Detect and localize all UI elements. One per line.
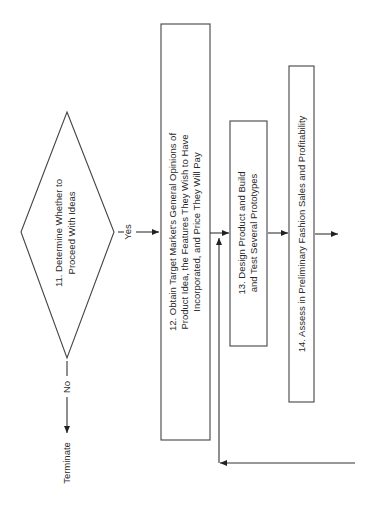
decision-11-line1: 11. Determine Whether to bbox=[53, 179, 64, 287]
step-13-line1: 13. Design Product and Build bbox=[236, 171, 247, 294]
step-12-line1: 12. Obtain Target Market's General Opini… bbox=[167, 133, 178, 331]
process-node-13: 13. Design Product and Build and Test Se… bbox=[230, 121, 267, 346]
decision-node-11: 11. Determine Whether to Proceed With Id… bbox=[21, 112, 114, 358]
process-node-12: 12. Obtain Target Market's General Opini… bbox=[161, 24, 210, 440]
step-12-line3: Incorporated, and Price They Will Pay bbox=[191, 152, 202, 312]
step-13-line2: and Test Several Prototypes bbox=[248, 173, 259, 292]
decision-11-line2: Proceed With Ideas bbox=[66, 191, 77, 274]
step-14-line1: 14. Assess in Preliminary Fashion Sales … bbox=[296, 115, 307, 352]
step-12-line2: Product Idea, the Features They Wish to … bbox=[179, 134, 190, 329]
process-node-14: 14. Assess in Preliminary Fashion Sales … bbox=[289, 66, 314, 402]
flowchart-diagram: 11. Determine Whether to Proceed With Id… bbox=[0, 0, 370, 506]
yes-connector: Yes bbox=[118, 224, 159, 240]
terminate-label: Terminate bbox=[61, 442, 72, 484]
yes-label: Yes bbox=[122, 224, 133, 240]
no-connector: No Terminate bbox=[61, 361, 72, 484]
no-label: No bbox=[61, 381, 72, 393]
